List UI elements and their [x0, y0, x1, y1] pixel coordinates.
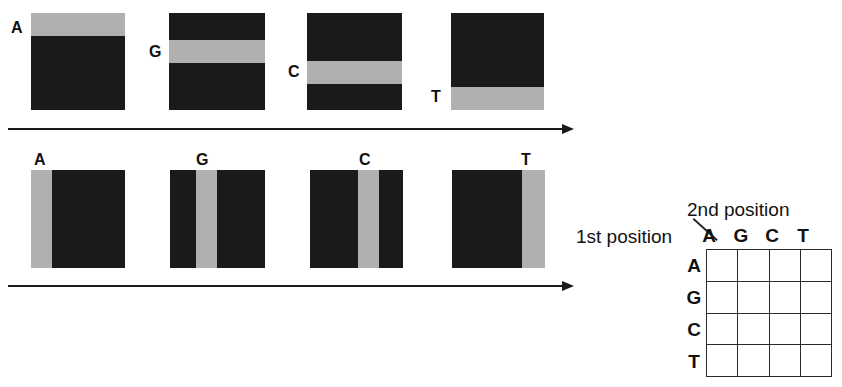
grid-cell-T-A[interactable]: [707, 345, 738, 377]
matrix-col-header-G: G: [731, 226, 751, 245]
table-row: [707, 345, 832, 377]
grid-cell-G-A[interactable]: [707, 281, 738, 313]
row2-tile-G-label: G: [196, 152, 208, 168]
row2-tile-T-band: [522, 170, 545, 268]
grid-cell-G-G[interactable]: [738, 281, 769, 313]
row1-tile-C-band: [307, 61, 402, 84]
row1-tile-T: [451, 13, 544, 110]
matrix-col-header-T: T: [793, 226, 813, 245]
grid-cell-A-A[interactable]: [707, 250, 738, 282]
codon-grid-body: [707, 250, 832, 377]
row1-tile-G: [169, 13, 265, 110]
row1-tile-C: [307, 13, 402, 110]
row2-arrow-line: [8, 285, 564, 287]
matrix-row-header-A: A: [685, 256, 703, 275]
row1-tile-G-band: [169, 40, 265, 63]
figure-canvas: A G C T A G: [0, 0, 842, 387]
row1-tile-T-label: T: [431, 89, 441, 105]
position-matrix: 2nd position 1st position A G C T A G C …: [570, 190, 842, 387]
row1-arrow-line: [8, 128, 564, 130]
matrix-row-header-T: T: [685, 352, 703, 371]
row1-tile-G-label: G: [149, 44, 161, 60]
row1-tile-C-label: C: [288, 64, 300, 80]
row1-group: A G C T: [0, 0, 580, 145]
grid-cell-C-T[interactable]: [800, 313, 831, 345]
row2-tile-A-label: A: [34, 152, 46, 168]
grid-cell-A-G[interactable]: [738, 250, 769, 282]
grid-cell-C-G[interactable]: [738, 313, 769, 345]
row2-tile-G: [170, 170, 265, 268]
row2-tile-C-band: [358, 170, 379, 268]
table-row: [707, 250, 832, 282]
matrix-column-axis-title: 2nd position: [687, 200, 789, 219]
row1-tile-A-band: [31, 13, 125, 36]
grid-cell-C-A[interactable]: [707, 313, 738, 345]
table-row: [707, 313, 832, 345]
matrix-row-header-G: G: [685, 288, 703, 307]
row2-tile-C: [310, 170, 403, 268]
matrix-col-header-C: C: [762, 226, 782, 245]
row1-tile-A-label: A: [11, 20, 23, 36]
matrix-row-header-C: C: [685, 320, 703, 339]
row1-arrow-head: [562, 124, 574, 134]
row2-tile-A: [31, 170, 125, 268]
row2-group: A G C T: [0, 150, 580, 300]
grid-cell-G-T[interactable]: [800, 281, 831, 313]
grid-cell-A-T[interactable]: [800, 250, 831, 282]
row1-tile-A: [31, 13, 125, 110]
codon-grid: [706, 249, 832, 377]
row2-tile-A-band: [31, 170, 52, 268]
grid-cell-G-C[interactable]: [769, 281, 800, 313]
grid-cell-C-C[interactable]: [769, 313, 800, 345]
matrix-row-axis-title: 1st position: [576, 227, 672, 246]
row1-tile-T-band: [451, 87, 544, 110]
grid-cell-T-C[interactable]: [769, 345, 800, 377]
row2-tile-G-band: [196, 170, 217, 268]
grid-cell-A-C[interactable]: [769, 250, 800, 282]
matrix-col-header-A: A: [699, 226, 719, 245]
grid-cell-T-T[interactable]: [800, 345, 831, 377]
row2-tile-T: [452, 170, 545, 268]
table-row: [707, 281, 832, 313]
row2-tile-C-label: C: [359, 152, 371, 168]
grid-cell-T-G[interactable]: [738, 345, 769, 377]
row2-tile-T-label: T: [521, 152, 531, 168]
